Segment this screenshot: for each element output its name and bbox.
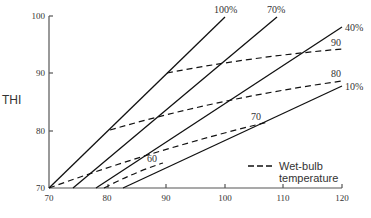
rh-70-line <box>73 17 277 188</box>
wb-60-label: 60 <box>147 153 157 164</box>
legend-label-line1: Wet-bulb <box>279 160 323 172</box>
x-tick-80: 80 <box>103 193 113 203</box>
y-tick-70: 70 <box>36 183 46 193</box>
wb-90-curve <box>167 49 342 73</box>
legend-label-line2: temperature <box>279 172 338 184</box>
rh-100-label: 100% <box>214 4 237 15</box>
y-tick-100: 100 <box>32 11 46 21</box>
wb-70-label: 70 <box>251 111 261 122</box>
x-tick-90: 90 <box>162 193 172 203</box>
y-tick-80: 80 <box>36 126 46 136</box>
x-tick-120: 120 <box>335 193 349 203</box>
rh-40-label: 40% <box>345 22 363 33</box>
wb-60-curve <box>104 163 163 188</box>
thi-chart: THI 100 90 80 70 70 80 90 100 110 120 <box>0 0 371 218</box>
x-tick-labels: 70 80 90 100 110 120 <box>45 193 350 203</box>
wb-80-curve <box>110 81 342 130</box>
y-tick-90: 90 <box>36 68 46 78</box>
rh-100-line <box>49 17 225 188</box>
wb-70-curve <box>49 122 268 188</box>
x-tick-100: 100 <box>218 193 232 203</box>
y-axis-label: THI <box>2 93 21 107</box>
rh-10-label: 10% <box>345 81 363 92</box>
legend: Wet-bulb temperature <box>248 160 338 184</box>
wb-80-label: 80 <box>331 68 341 79</box>
wb-90-label: 90 <box>331 37 341 48</box>
x-tick-110: 110 <box>276 193 290 203</box>
y-tick-labels: 100 90 80 70 <box>32 11 46 193</box>
rh-70-label: 70% <box>267 4 285 15</box>
x-tick-70: 70 <box>45 193 55 203</box>
